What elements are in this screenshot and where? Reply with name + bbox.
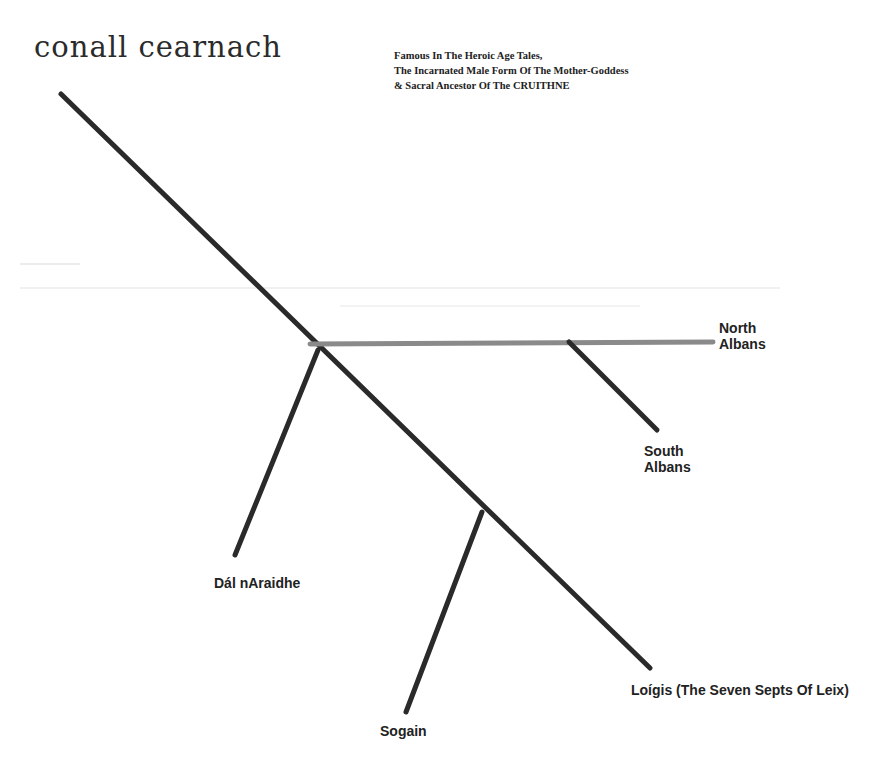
- tree-lines: [0, 0, 886, 770]
- subtitle-line: Famous In The Heroic Age Tales,: [394, 48, 628, 63]
- label-sogain: Sogain: [380, 723, 427, 739]
- label-dal-naraidhe: Dál nAraidhe: [214, 575, 300, 591]
- label-line: South: [644, 443, 691, 459]
- diagram-title: conall cearnach: [34, 30, 282, 64]
- subtitle-line: & Sacral Ancestor Of The CRUITHNE: [394, 78, 628, 93]
- trunk-line: [61, 94, 650, 668]
- genealogy-diagram: conall cearnach Famous In The Heroic Age…: [0, 0, 886, 770]
- south-albans-line: [569, 342, 657, 430]
- north-albans-line: [310, 342, 713, 344]
- subtitle-line: The Incarnated Male Form Of The Mother-G…: [394, 63, 628, 78]
- label-south-albans: South Albans: [644, 443, 691, 475]
- label-north-albans: North Albans: [719, 320, 766, 352]
- label-loigis: Loígis (The Seven Septs Of Leix): [631, 682, 849, 698]
- label-line: Albans: [719, 336, 766, 352]
- dal-naraidhe-line: [235, 350, 318, 555]
- label-line: North: [719, 320, 766, 336]
- sogain-line: [406, 512, 482, 712]
- diagram-subtitle: Famous In The Heroic Age Tales, The Inca…: [394, 48, 628, 93]
- label-line: Albans: [644, 459, 691, 475]
